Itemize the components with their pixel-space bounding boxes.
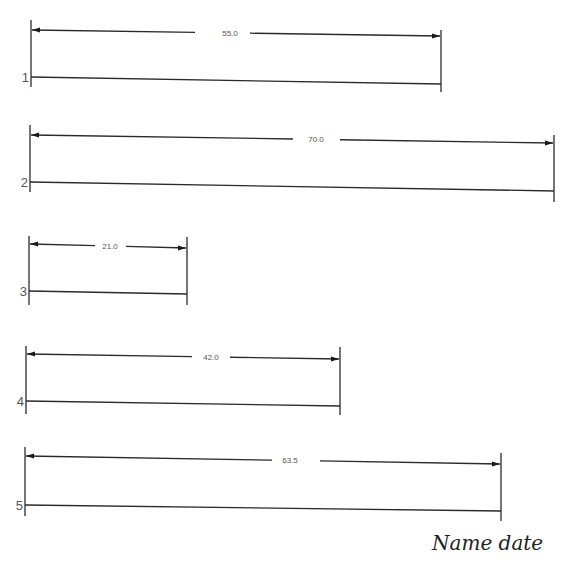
arrowhead-left-icon (30, 242, 38, 247)
arrowhead-right-icon (178, 246, 186, 251)
dimension-label: 63.5 (282, 456, 298, 465)
measured-line (31, 77, 441, 84)
dimension-line-right (320, 461, 500, 464)
dimension-line-right (126, 246, 186, 248)
measured-line (29, 291, 187, 294)
dimension-label: 70.0 (308, 135, 324, 144)
dimension-label: 42.0 (203, 353, 219, 362)
arrowhead-right-icon (545, 141, 553, 146)
row-number: 5 (16, 498, 23, 513)
arrowhead-left-icon (32, 28, 40, 33)
arrowhead-right-icon (331, 357, 339, 362)
dimension-row-1: 55.01 (22, 20, 441, 92)
arrowhead-left-icon (27, 352, 35, 357)
dimension-label: 21.0 (102, 242, 118, 251)
arrowhead-right-icon (492, 462, 500, 467)
dimension-line-left (30, 244, 95, 246)
arrowhead-left-icon (31, 133, 39, 138)
dimension-line-left (31, 135, 293, 139)
row-number: 2 (21, 175, 28, 190)
measured-line (30, 182, 554, 191)
dimension-worksheet: 55.0170.0221.0342.0463.55 Name date (0, 0, 568, 566)
dimension-row-5: 63.55 (16, 447, 501, 521)
dimension-line-left (27, 354, 192, 357)
dimension-row-2: 70.02 (21, 125, 554, 202)
dimension-label: 55.0 (222, 29, 238, 38)
dimension-line-right (250, 33, 440, 36)
dimension-line-left (32, 30, 195, 32)
dimension-line-left (26, 456, 272, 460)
arrowhead-left-icon (26, 454, 34, 459)
measured-line (25, 505, 501, 511)
arrowhead-right-icon (432, 34, 440, 39)
dimension-line-right (340, 140, 553, 143)
dimension-row-4: 42.04 (17, 346, 340, 415)
measured-line (26, 401, 340, 406)
signature-text: Name date (431, 531, 543, 555)
row-number: 3 (20, 284, 27, 299)
dimension-row-3: 21.03 (20, 236, 187, 305)
row-number: 4 (17, 394, 24, 409)
dimension-line-right (230, 357, 339, 359)
row-number: 1 (22, 70, 29, 85)
